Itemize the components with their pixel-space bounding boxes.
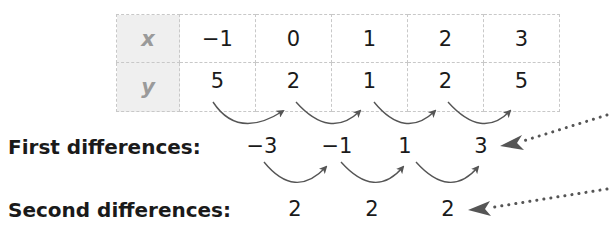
second-difference-arrows bbox=[264, 162, 478, 182]
first-difference-value: −1 bbox=[322, 134, 353, 158]
y-value: 5 bbox=[484, 63, 560, 112]
curved-arrow-icon bbox=[341, 162, 403, 182]
y-value: 1 bbox=[332, 63, 408, 112]
x-value: 0 bbox=[256, 15, 332, 63]
y-value: 2 bbox=[256, 63, 332, 112]
arrowhead-icon bbox=[468, 201, 491, 216]
dotted-arrow-icon bbox=[488, 189, 607, 208]
x-header: x bbox=[117, 15, 180, 63]
first-difference-value: 3 bbox=[474, 134, 487, 158]
y-row: y 5 2 1 2 5 bbox=[117, 63, 560, 112]
x-row: x −1 0 1 2 3 bbox=[117, 15, 560, 63]
y-header: y bbox=[117, 63, 180, 112]
y-value: 5 bbox=[180, 63, 256, 112]
dotted-pointer-arrows bbox=[488, 115, 607, 208]
second-difference-value: 2 bbox=[288, 197, 301, 221]
x-value: −1 bbox=[180, 15, 256, 63]
first-difference-value: −3 bbox=[247, 134, 278, 158]
y-value: 2 bbox=[408, 63, 484, 112]
arrowhead-icon bbox=[500, 135, 524, 150]
x-value: 2 bbox=[408, 15, 484, 63]
first-difference-value: 1 bbox=[398, 134, 411, 158]
curved-arrow-icon bbox=[264, 162, 326, 182]
second-differences-label: Second differences: bbox=[8, 198, 231, 222]
xy-table: x −1 0 1 2 3 y 5 2 1 2 5 bbox=[116, 14, 560, 112]
first-differences-label: First differences: bbox=[8, 135, 201, 159]
second-difference-value: 2 bbox=[365, 197, 378, 221]
x-value: 1 bbox=[332, 15, 408, 63]
dotted-arrow-icon bbox=[520, 115, 607, 142]
second-difference-value: 2 bbox=[441, 197, 454, 221]
x-value: 3 bbox=[484, 15, 560, 63]
curved-arrow-icon bbox=[416, 162, 478, 182]
